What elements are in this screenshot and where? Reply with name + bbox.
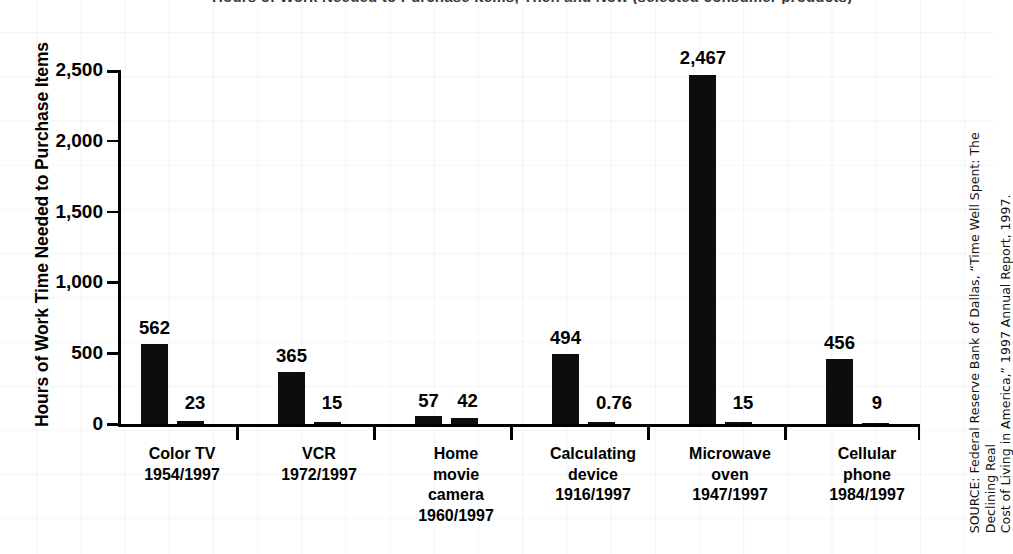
bar-calculating-device-then [552, 354, 579, 424]
category-label-calculating-device: Calculating device 1916/1997 [523, 444, 663, 506]
bar-label-cellular-phone-then: 456 [809, 332, 870, 354]
source-line-2: Cost of Living in America,” 1997 Annual … [998, 195, 1013, 534]
group-separator-4 [647, 427, 650, 440]
y-tick-label: 2,000 [55, 130, 103, 152]
y-tick-mark [107, 211, 118, 214]
y-tick-mark [107, 140, 118, 143]
y-tick-mark [107, 70, 118, 73]
bar-vcr-now [314, 422, 341, 424]
bar-color-tv-now [177, 421, 204, 424]
category-label-color-tv: Color TV 1954/1997 [112, 444, 252, 485]
bar-label-microwave-oven-then: 2,467 [665, 47, 741, 69]
bar-microwave-oven-then [689, 75, 716, 424]
group-separator-1 [236, 427, 239, 440]
y-tick-label: 500 [71, 342, 103, 364]
category-label-vcr: VCR 1972/1997 [249, 444, 389, 485]
bar-label-vcr-then: 365 [261, 345, 322, 367]
group-separator-3 [510, 427, 513, 440]
source-note: SOURCE: Federal Reserve Bank of Dallas, … [967, 93, 1013, 533]
y-tick-label: 2,500 [55, 59, 103, 81]
group-separator-2 [373, 427, 376, 440]
y-tick-mark [107, 281, 118, 284]
bar-label-cellular-phone-now: 9 [860, 392, 894, 414]
y-tick-mark [107, 423, 118, 426]
chart-title: Hours of Work Needed to Purchase Items, … [212, 0, 912, 4]
category-label-cellular-phone: Cellular phone 1984/1997 [797, 444, 937, 506]
source-line-1: SOURCE: Federal Reserve Bank of Dallas, … [967, 132, 998, 533]
bar-vcr-then [278, 372, 305, 424]
y-axis-line [118, 70, 121, 424]
bar-label-color-tv-now: 23 [173, 392, 217, 414]
y-tick-mark [107, 352, 118, 355]
y-tick-label: 1,000 [55, 271, 103, 293]
bar-microwave-oven-now [725, 422, 752, 424]
bar-cellular-phone-now [862, 423, 889, 425]
y-axis-title: Hours of Work Time Needed to Purchase It… [32, 25, 53, 445]
bar-label-vcr-now: 15 [310, 392, 354, 414]
bar-cellular-phone-then [826, 359, 853, 424]
category-label-home-movie-camera: Home movie camera 1960/1997 [386, 444, 526, 526]
plot-area: 0 500 1,000 1,500 2,000 2,500 [118, 70, 920, 424]
bar-calculating-device-now [588, 422, 615, 424]
bar-color-tv-then [141, 344, 168, 424]
bar-label-microwave-oven-now: 15 [721, 392, 765, 414]
x-axis-end-cap [918, 427, 921, 440]
category-label-microwave-oven: Microwave oven 1947/1997 [660, 444, 800, 506]
bar-home-movie-camera-now [451, 418, 478, 424]
bar-label-calculating-device-then: 494 [535, 327, 596, 349]
bar-label-calculating-device-now: 0.76 [577, 392, 651, 414]
bar-label-color-tv-then: 562 [124, 317, 185, 339]
group-separator-5 [784, 427, 787, 440]
y-tick-label: 1,500 [55, 201, 103, 223]
y-tick-label: 0 [92, 413, 103, 435]
bar-home-movie-camera-then [415, 416, 442, 424]
bar-label-home-movie-camera-now: 42 [440, 390, 495, 412]
